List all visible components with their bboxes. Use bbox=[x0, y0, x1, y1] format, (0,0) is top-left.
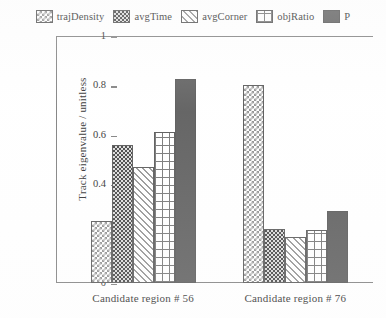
legend-entry-avgCorner: avgCorner bbox=[181, 10, 247, 23]
legend-label-objRatio: objRatio bbox=[277, 11, 314, 22]
x-axis-group-label-0: Candidate region # 56 bbox=[63, 292, 223, 304]
bars-layer bbox=[56, 36, 373, 283]
legend-label-avgTime: avgTime bbox=[134, 11, 172, 22]
legend-label-avgCorner: avgCorner bbox=[202, 11, 247, 22]
legend-swatch-trajDensity-icon bbox=[36, 10, 53, 23]
legend-entry-objRatio: objRatio bbox=[256, 10, 314, 23]
bar-P-group-1 bbox=[327, 211, 348, 283]
bar-P-group-0 bbox=[175, 79, 196, 283]
legend-swatch-avgTime-icon bbox=[113, 10, 130, 23]
bar-chart: trajDensityavgTimeavgCornerobjRatioP Tra… bbox=[0, 0, 386, 318]
bar-objRatio-group-1 bbox=[306, 230, 327, 283]
legend-entry-P: P bbox=[323, 10, 350, 23]
x-axis-group-label-1: Candidate region # 76 bbox=[215, 292, 375, 304]
legend-entry-avgTime: avgTime bbox=[113, 10, 172, 23]
bar-objRatio-group-0 bbox=[154, 132, 175, 283]
bar-trajDensity-group-1 bbox=[243, 85, 264, 283]
legend-label-P: P bbox=[344, 11, 350, 22]
bar-avgCorner-group-1 bbox=[285, 237, 306, 283]
bar-trajDensity-group-0 bbox=[91, 221, 112, 283]
y-axis-tick: 0 bbox=[57, 284, 117, 285]
legend-entry-trajDensity: trajDensity bbox=[36, 10, 105, 23]
legend-swatch-P-icon bbox=[323, 10, 340, 23]
y-axis-tick-mark bbox=[111, 284, 117, 285]
bar-avgTime-group-0 bbox=[112, 145, 133, 283]
legend-swatch-avgCorner-icon bbox=[181, 10, 198, 23]
legend-swatch-objRatio-icon bbox=[256, 10, 273, 23]
bar-avgTime-group-1 bbox=[264, 229, 285, 283]
bar-avgCorner-group-0 bbox=[133, 167, 154, 283]
legend-label-trajDensity: trajDensity bbox=[57, 11, 105, 22]
chart-legend: trajDensityavgTimeavgCornerobjRatioP bbox=[0, 6, 386, 26]
